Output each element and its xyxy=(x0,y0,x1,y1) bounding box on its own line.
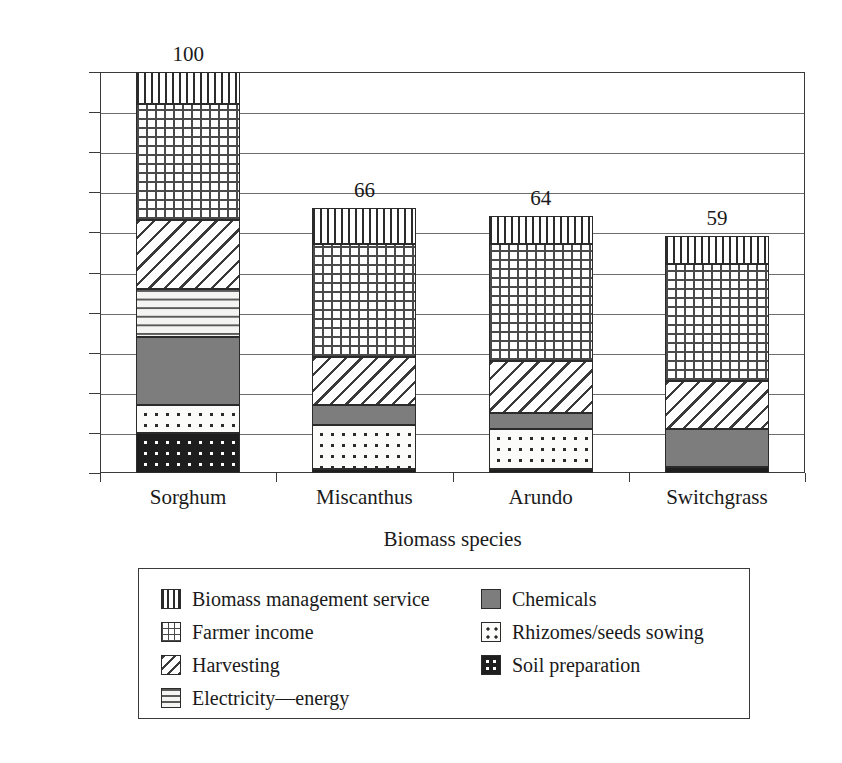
x-axis-tick-mark xyxy=(453,473,454,482)
legend-item-label: Soil preparation xyxy=(512,655,640,675)
bar-segment xyxy=(136,72,240,104)
bar-total-label: 100 xyxy=(136,44,240,65)
light-dotted-swatch-icon xyxy=(481,622,501,642)
bar-segment xyxy=(489,216,593,244)
stacked-bar-chart: 1009080706050403020100 100666459 Sorghum… xyxy=(0,0,842,763)
y-axis-tick-mark xyxy=(89,152,100,153)
legend-item: Farmer income xyxy=(161,615,430,648)
bar-segment xyxy=(665,467,769,473)
legend-item-label: Rhizomes/seeds sowing xyxy=(512,622,704,642)
legend-item: Soil preparation xyxy=(481,648,704,681)
legend-item: Harvesting xyxy=(161,648,430,681)
bar-sorghum xyxy=(136,72,240,473)
bar-segment xyxy=(136,220,240,288)
bar-segment xyxy=(489,469,593,473)
x-axis-title: Biomass species xyxy=(100,527,805,552)
y-axis-tick-mark xyxy=(89,112,100,113)
y-axis-tick-mark xyxy=(89,353,100,354)
x-axis-category-label: Arundo xyxy=(451,486,631,508)
bar-segment xyxy=(312,208,416,244)
bar-total-label: 64 xyxy=(489,188,593,209)
y-axis-tick-mark xyxy=(89,232,100,233)
bar-segment xyxy=(312,469,416,473)
bar-segment xyxy=(136,405,240,433)
bar-segment xyxy=(312,357,416,405)
y-axis: 1009080706050403020100 xyxy=(0,0,100,763)
bar-switchgrass xyxy=(665,72,769,473)
bar-total-label: 59 xyxy=(665,208,769,229)
y-axis-tick-mark xyxy=(89,273,100,274)
x-axis-tick-mark xyxy=(276,473,277,482)
x-axis-category-label: Switchgrass xyxy=(627,486,807,508)
x-axis-tick-mark xyxy=(629,473,630,482)
bar-segment xyxy=(312,405,416,425)
bar-segment xyxy=(312,425,416,469)
y-axis-tick-mark xyxy=(89,192,100,193)
bar-segment xyxy=(489,244,593,360)
vertical-lines-swatch-icon xyxy=(161,589,181,609)
legend-item-label: Chemicals xyxy=(512,589,596,609)
fine-dashes-swatch-icon xyxy=(161,688,181,708)
bar-segment xyxy=(665,236,769,264)
legend-column-left: Biomass management serviceFarmer incomeH… xyxy=(161,582,430,714)
legend-item: Chemicals xyxy=(481,582,704,615)
bar-total-label: 66 xyxy=(312,180,416,201)
y-axis-tick-mark xyxy=(89,313,100,314)
bar-segment xyxy=(665,429,769,467)
dark-dotted-swatch-icon xyxy=(481,655,501,675)
legend-item-label: Harvesting xyxy=(192,655,280,675)
bar-segment xyxy=(312,244,416,356)
legend-item: Rhizomes/seeds sowing xyxy=(481,615,704,648)
bar-segment xyxy=(136,337,240,405)
x-axis-category-label: Miscanthus xyxy=(274,486,454,508)
bar-segment xyxy=(136,104,240,220)
bar-arundo xyxy=(489,72,593,473)
bar-segment xyxy=(136,289,240,337)
legend-item-label: Biomass management service xyxy=(192,589,430,609)
bar-segment xyxy=(489,361,593,413)
bar-miscanthus xyxy=(312,72,416,473)
bar-segment xyxy=(665,264,769,380)
diagonal-hatch-swatch-icon xyxy=(161,655,181,675)
legend-column-right: ChemicalsRhizomes/seeds sowingSoil prepa… xyxy=(481,582,704,681)
x-axis-category-label: Sorghum xyxy=(98,486,278,508)
solid-gray-swatch-icon xyxy=(481,589,501,609)
legend-item: Electricity—energy xyxy=(161,681,430,714)
legend-item-label: Farmer income xyxy=(192,622,314,642)
bar-segment xyxy=(665,381,769,429)
bar-segment xyxy=(489,429,593,469)
cross-grid-swatch-icon xyxy=(161,622,181,642)
y-axis-tick-mark xyxy=(89,72,100,73)
bar-segment xyxy=(489,413,593,429)
y-axis-tick-mark xyxy=(89,473,100,474)
x-axis-tick-mark xyxy=(100,473,101,482)
legend-item-label: Electricity—energy xyxy=(192,688,349,708)
bar-segment xyxy=(136,433,240,473)
legend-item: Biomass management service xyxy=(161,582,430,615)
y-axis-tick-mark xyxy=(89,433,100,434)
legend: Biomass management serviceFarmer incomeH… xyxy=(138,568,750,719)
y-axis-tick-mark xyxy=(89,393,100,394)
x-axis-tick-mark xyxy=(805,473,806,482)
bars-layer xyxy=(100,72,805,473)
